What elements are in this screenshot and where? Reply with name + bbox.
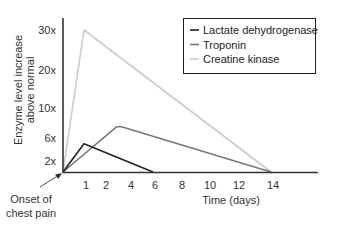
legend-label-creatine-kinase: Creatine kinase — [203, 53, 279, 65]
y-axis-title-line-2: above normal — [24, 57, 36, 124]
x-tick-label: 8 — [179, 179, 185, 191]
series-line-lactate-dehydrogenase — [63, 144, 153, 172]
x-tick-label: 1 — [83, 179, 89, 191]
y-tick-label: 6x — [44, 132, 56, 144]
x-tick-label: 10 — [204, 179, 216, 191]
x-tick-label: 12 — [233, 179, 245, 191]
y-tick-labels: 2x6x10x20x30x — [38, 24, 56, 167]
y-tick-label: 10x — [38, 102, 56, 114]
x-tick-label: 2 — [103, 179, 109, 191]
onset-annotation-line-1: Onset of — [10, 193, 53, 205]
y-axis-title-line-1: Enzyme level increase — [12, 35, 24, 145]
x-tick-labels: 12468101214 — [83, 179, 279, 191]
legend: Lactate dehydrogenaseTroponinCreatine ki… — [184, 19, 318, 74]
onset-annotation: Onset of chest pain — [6, 173, 62, 219]
x-tick-label: 6 — [152, 179, 158, 191]
onset-annotation-line-2: chest pain — [6, 207, 56, 219]
onset-arrow-head — [55, 173, 62, 179]
y-tick-label: 20x — [38, 64, 56, 76]
onset-arrow-line — [40, 175, 59, 187]
x-tick-label: 14 — [267, 179, 279, 191]
series-line-troponin — [63, 127, 271, 172]
legend-label-troponin: Troponin — [203, 39, 246, 51]
x-axis-title: Time (days) — [202, 194, 260, 206]
y-axis-title: Enzyme level increase above normal — [12, 35, 36, 145]
x-tick-label: 4 — [128, 179, 134, 191]
y-tick-label: 2x — [44, 155, 56, 167]
y-tick-label: 30x — [38, 24, 56, 36]
enzyme-chart: Enzyme level increase above normal 2x6x1… — [0, 0, 338, 226]
legend-label-lactate-dehydrogenase: Lactate dehydrogenase — [203, 24, 318, 36]
